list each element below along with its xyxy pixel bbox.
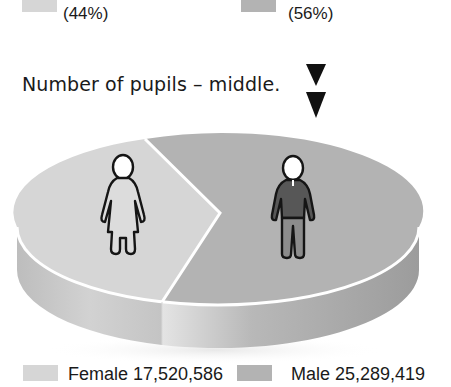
legend-label-female: Female 17,520,586: [68, 365, 223, 383]
legend-swatch-male: [237, 365, 272, 381]
legend-swatch-female: [23, 365, 58, 381]
pie-chart: [0, 0, 451, 387]
legend-label-male: Male 25,289,419: [291, 365, 425, 383]
